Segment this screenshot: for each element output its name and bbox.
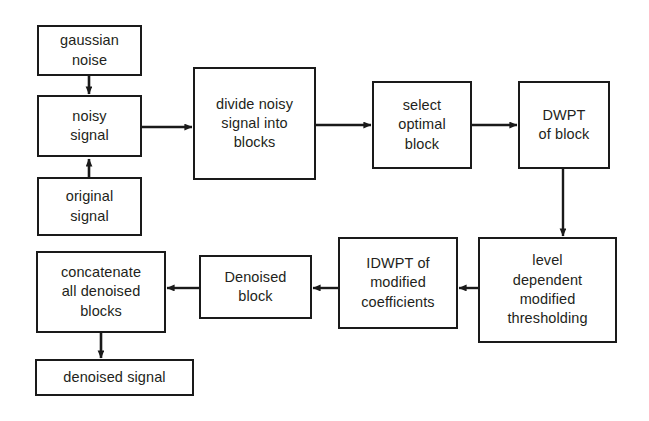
node-noisy-signal[interactable]: noisy signal [37,95,142,157]
node-label: Denoised block [205,268,306,307]
node-label: original signal [43,187,136,226]
node-label: DWPT of block [524,106,604,145]
node-label: concatenate all denoised blocks [42,263,160,321]
node-denoised-block[interactable]: Denoised block [199,255,312,319]
node-label: divide noisy signal into blocks [199,95,310,153]
node-label: noisy signal [43,107,136,146]
flowchart-canvas: gaussian noise noisy signal original sig… [0,0,649,421]
node-label: gaussian noise [43,31,136,70]
node-label: IDWPT of modified coefficients [344,254,452,312]
node-label: denoised signal [41,368,188,387]
node-divide-noisy-signal[interactable]: divide noisy signal into blocks [193,67,316,180]
node-dwpt-of-block[interactable]: DWPT of block [518,81,610,169]
node-level-dependent-thresholding[interactable]: level dependent modified thresholding [478,237,617,343]
node-concatenate-all-denoised-blocks[interactable]: concatenate all denoised blocks [36,251,166,333]
node-label: level dependent modified thresholding [484,251,611,328]
node-label: select optimal block [378,96,466,154]
node-original-signal[interactable]: original signal [37,177,142,236]
node-idwpt-modified-coefficients[interactable]: IDWPT of modified coefficients [338,237,458,329]
node-denoised-signal[interactable]: denoised signal [35,359,194,396]
node-select-optimal-block[interactable]: select optimal block [372,81,472,169]
node-gaussian-noise[interactable]: gaussian noise [37,25,142,76]
